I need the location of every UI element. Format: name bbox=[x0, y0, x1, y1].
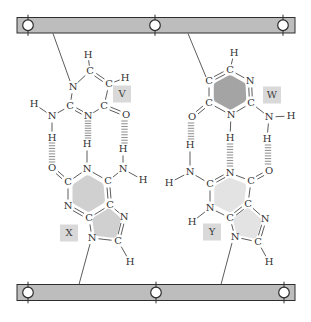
atom-O: O bbox=[188, 111, 196, 122]
bond-single bbox=[58, 109, 65, 113]
bond-single bbox=[175, 175, 184, 180]
bond-single bbox=[196, 175, 205, 180]
atom-C: C bbox=[205, 97, 213, 108]
base-label-Y: Y bbox=[208, 226, 216, 237]
bond-double bbox=[107, 188, 108, 199]
bond-single bbox=[93, 109, 98, 112]
atom-H: H bbox=[287, 110, 296, 121]
bond-single bbox=[129, 172, 138, 177]
atom-N: N bbox=[246, 75, 255, 86]
atom-C: C bbox=[100, 100, 108, 111]
bond-single bbox=[39, 108, 46, 113]
bond-single bbox=[256, 107, 264, 113]
atom-C: C bbox=[226, 64, 234, 75]
bond-single bbox=[237, 106, 246, 111]
bond-single bbox=[268, 123, 269, 132]
phosphate-bead bbox=[151, 287, 162, 298]
bond-double bbox=[75, 110, 82, 114]
bond-single bbox=[236, 73, 245, 78]
atom-N: N bbox=[84, 110, 93, 121]
atom-N: N bbox=[265, 111, 274, 122]
bond-double bbox=[76, 108, 83, 112]
atom-N: N bbox=[186, 166, 195, 177]
bond-double bbox=[257, 175, 264, 179]
atom-H: H bbox=[226, 132, 235, 143]
atom-C: C bbox=[247, 97, 255, 108]
bond-single bbox=[93, 172, 103, 178]
atom-H: H bbox=[30, 98, 39, 109]
bond-single bbox=[114, 80, 119, 82]
atom-C: C bbox=[106, 199, 114, 210]
phosphate-bead bbox=[278, 20, 289, 31]
atom-N: N bbox=[48, 110, 57, 121]
phosphate-bead bbox=[23, 287, 34, 298]
atom-O: O bbox=[265, 165, 273, 176]
phosphate-bead bbox=[279, 287, 290, 298]
atom-C: C bbox=[86, 65, 94, 76]
atom-N: N bbox=[206, 202, 215, 213]
base-label-W: W bbox=[267, 89, 278, 100]
bond-double bbox=[110, 187, 111, 198]
bond-single bbox=[215, 106, 226, 112]
atom-H: H bbox=[139, 174, 148, 185]
atom-H: H bbox=[126, 256, 135, 267]
atom-H: H bbox=[265, 256, 274, 267]
phosphate-bead bbox=[23, 20, 34, 31]
atom-N: N bbox=[119, 163, 128, 174]
atom-N: N bbox=[64, 200, 73, 211]
phosphate-bead bbox=[150, 20, 161, 31]
atom-C: C bbox=[105, 78, 113, 89]
ring-shading-W bbox=[218, 79, 242, 105]
bond-single bbox=[236, 175, 245, 178]
atom-N: N bbox=[88, 232, 97, 243]
bond-single bbox=[241, 238, 251, 240]
backbone-connector bbox=[53, 34, 70, 82]
atom-N: N bbox=[120, 211, 129, 222]
atom-C: C bbox=[254, 236, 262, 247]
backbone-connector bbox=[79, 244, 90, 285]
atom-H: H bbox=[230, 47, 239, 58]
bond-single bbox=[216, 211, 224, 215]
bond-single bbox=[90, 224, 91, 231]
bond-single bbox=[73, 173, 81, 179]
atom-N: N bbox=[69, 81, 78, 92]
atom-N: N bbox=[227, 109, 236, 120]
atom-N: N bbox=[83, 163, 92, 174]
atom-C: C bbox=[226, 212, 234, 223]
atom-H: H bbox=[165, 177, 174, 188]
bond-single bbox=[98, 239, 111, 241]
bond-double bbox=[121, 224, 124, 235]
bond-single bbox=[121, 247, 127, 257]
atom-H: H bbox=[121, 72, 130, 83]
atom-H: H bbox=[119, 143, 128, 154]
bond-single bbox=[261, 248, 266, 257]
backbone-connector bbox=[221, 243, 232, 285]
atom-C: C bbox=[206, 178, 214, 189]
atom-C: C bbox=[66, 100, 74, 111]
atom-C: C bbox=[104, 175, 112, 186]
atom-N: N bbox=[226, 167, 235, 178]
atom-C: C bbox=[244, 198, 252, 209]
bond-single bbox=[105, 90, 107, 99]
atom-C: C bbox=[114, 235, 122, 246]
ring-shading-Y bbox=[218, 182, 242, 208]
atom-H: H bbox=[188, 216, 197, 227]
atom-H: H bbox=[186, 139, 195, 150]
ring-shading-X bbox=[96, 213, 116, 234]
atom-C: C bbox=[85, 212, 93, 223]
atom-H: H bbox=[83, 138, 92, 149]
bond-single bbox=[113, 173, 118, 177]
atom-H: H bbox=[84, 49, 93, 60]
base-pair-diagram: NCHCHCONCNHHVCCHNCNHHNHCOWOCNHCNHHNCCNCH… bbox=[0, 0, 311, 322]
atom-N: N bbox=[231, 231, 240, 242]
base-label-V: V bbox=[117, 88, 126, 99]
backbone-connector bbox=[188, 34, 206, 78]
bond-double bbox=[261, 226, 264, 237]
atom-C: C bbox=[247, 175, 255, 186]
base-label-X: X bbox=[65, 227, 73, 238]
ring-shading-Y bbox=[237, 212, 257, 234]
bond-single bbox=[232, 224, 234, 230]
bond-single bbox=[78, 75, 86, 82]
atom-O: O bbox=[48, 162, 56, 173]
bond-single bbox=[71, 93, 72, 99]
